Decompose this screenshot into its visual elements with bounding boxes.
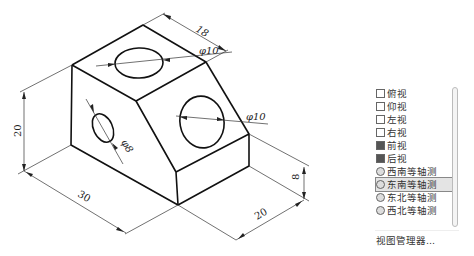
view-manager-item[interactable]: 视图管理器... xyxy=(376,233,435,247)
bottom-view-icon xyxy=(376,102,385,111)
chamfer-back-edge xyxy=(206,62,249,134)
dim-top-hole-label: φ10 xyxy=(199,45,219,56)
dim-right-hole-label: φ10 xyxy=(246,111,266,122)
dim-width-label: 20 xyxy=(253,206,270,222)
arrowheads xyxy=(22,14,306,239)
ne-isometric-icon xyxy=(376,193,385,202)
dim-left-hole-label: φ8 xyxy=(119,138,135,155)
view-menu: 俯视 仰视 左视 右视 前视 后视 西南等轴测 东南等轴测 东北等轴测 西北等轴… xyxy=(372,84,464,256)
dim-length-label: 30 xyxy=(76,188,93,204)
back-view-icon xyxy=(376,154,385,163)
menu-item-right-view[interactable]: 右视 xyxy=(376,126,456,139)
left-view-icon xyxy=(376,115,385,124)
part-outline xyxy=(71,25,249,205)
menu-item-ne-isometric[interactable]: 东北等轴测 xyxy=(376,191,456,204)
menu-item-top-view[interactable]: 俯视 xyxy=(376,87,456,100)
se-isometric-icon xyxy=(376,180,385,189)
right-view-icon xyxy=(376,128,385,137)
left-hole xyxy=(88,110,118,145)
nw-isometric-icon xyxy=(376,206,385,215)
chamfer-face-edge xyxy=(136,101,178,205)
menu-item-front-view[interactable]: 前视 xyxy=(376,139,456,152)
dimension-lines xyxy=(18,13,309,240)
top-view-icon xyxy=(376,89,385,98)
menu-item-left-view[interactable]: 左视 xyxy=(376,113,456,126)
menu-item-nw-isometric[interactable]: 西北等轴测 xyxy=(376,204,456,217)
sw-isometric-icon xyxy=(376,167,385,176)
menu-divider xyxy=(375,230,459,231)
dim-height-label: 20 xyxy=(12,124,23,137)
menu-item-sw-isometric[interactable]: 西南等轴测 xyxy=(376,165,456,178)
right-hole xyxy=(176,93,228,152)
menu-item-back-view[interactable]: 后视 xyxy=(376,152,456,165)
front-view-icon xyxy=(376,141,385,150)
isometric-drawing: 18 φ10 φ10 φ8 20 30 20 8 xyxy=(0,0,340,256)
menu-item-se-isometric[interactable]: 东南等轴测 xyxy=(376,178,456,191)
dim-18-label: 18 xyxy=(194,23,211,39)
menu-item-bottom-view[interactable]: 仰视 xyxy=(376,100,456,113)
dim-step-label: 8 xyxy=(290,174,301,180)
top-face-edge xyxy=(72,25,206,101)
menu-scrollbar[interactable] xyxy=(452,87,458,227)
